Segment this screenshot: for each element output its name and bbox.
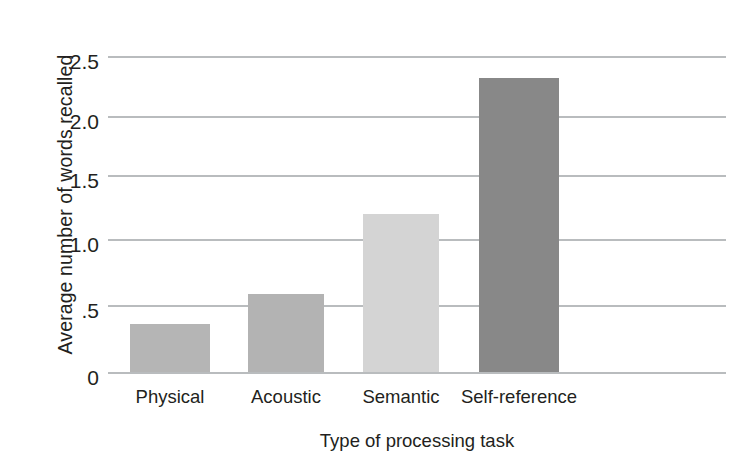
x-tick-label-semantic: Semantic	[341, 386, 461, 408]
x-tick-label-acoustic: Acoustic	[226, 386, 346, 408]
gridline-0	[108, 372, 726, 374]
x-tick-label-physical: Physical	[110, 386, 230, 408]
y-axis-title: Average number of words recalled	[54, 20, 77, 390]
bar-physical	[130, 324, 210, 372]
x-axis-title: Type of processing task	[108, 430, 726, 452]
bar-self-reference	[479, 78, 559, 373]
y-tick-label-0: 0	[87, 367, 99, 388]
bar-acoustic	[248, 294, 324, 372]
bar-chart: Average number of words recalled 0 .5 1.…	[0, 0, 749, 475]
bar-semantic	[363, 214, 439, 372]
y-tick-label-0point5: .5	[81, 300, 99, 321]
y-tick-label-2point5: 2.5	[70, 51, 99, 72]
x-tick-label-self-reference: Self-reference	[449, 386, 589, 408]
gridline-1point5	[108, 175, 726, 177]
y-tick-label-1: 1.0	[70, 234, 99, 255]
plot-area: 0 .5 1.0 1.5 2.0 2.5 Physical Acoustic S…	[108, 20, 726, 380]
y-tick-label-2: 2.0	[70, 111, 99, 132]
gridline-2point5	[108, 56, 726, 58]
gridline-2	[108, 116, 726, 118]
y-tick-label-1point5: 1.5	[70, 170, 99, 191]
